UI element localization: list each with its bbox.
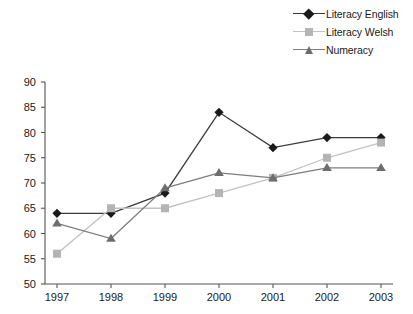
data-point-marker xyxy=(161,204,169,212)
x-tick-label: 2000 xyxy=(207,291,231,303)
chart-canvas: 505560657075808590 199719981999200020012… xyxy=(0,0,413,314)
x-tick-label: 2001 xyxy=(261,291,285,303)
x-tick-label: 1999 xyxy=(153,291,177,303)
data-point-marker xyxy=(215,189,223,197)
data-point-marker xyxy=(268,143,277,152)
data-point-marker xyxy=(107,204,115,212)
y-axis-tick-labels: 505560657075808590 xyxy=(24,76,36,290)
data-point-marker xyxy=(322,163,332,171)
data-point-marker xyxy=(322,133,331,142)
x-tick-label: 2003 xyxy=(369,291,393,303)
y-tick-label: 65 xyxy=(24,202,36,214)
y-tick-label: 90 xyxy=(24,76,36,88)
x-tick-label: 2002 xyxy=(315,291,339,303)
x-axis-tick-labels: 1997199819992000200120022003 xyxy=(45,291,393,303)
data-point-marker xyxy=(52,219,62,227)
y-tick-label: 50 xyxy=(24,278,36,290)
data-point-marker xyxy=(214,108,223,117)
y-tick-label: 60 xyxy=(24,228,36,240)
y-tick-label: 55 xyxy=(24,253,36,265)
y-tick-label: 70 xyxy=(24,177,36,189)
data-point-marker xyxy=(52,209,61,218)
x-tick-label: 1998 xyxy=(99,291,123,303)
y-tick-label: 80 xyxy=(24,127,36,139)
data-point-marker xyxy=(377,139,385,147)
data-point-marker xyxy=(214,168,224,176)
y-tick-label: 85 xyxy=(24,101,36,113)
data-point-marker xyxy=(53,250,61,258)
series-literacy-english xyxy=(52,108,385,218)
y-tick-label: 75 xyxy=(24,152,36,164)
chart-series-group xyxy=(52,108,386,258)
x-tick-label: 1997 xyxy=(45,291,69,303)
data-point-marker xyxy=(376,163,386,171)
data-point-marker xyxy=(323,154,331,162)
series-numeracy xyxy=(52,163,386,242)
series-literacy-welsh xyxy=(53,139,385,258)
line-chart-plot: 505560657075808590 199719981999200020012… xyxy=(0,0,413,314)
